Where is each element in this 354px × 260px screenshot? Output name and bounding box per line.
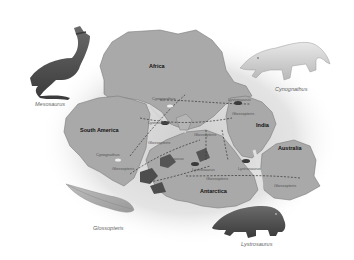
australia-landmass (260, 140, 320, 200)
cynognathus-marker-icon (167, 104, 173, 107)
map-graphic (0, 0, 354, 260)
cynognathus-marker-icon (115, 158, 121, 161)
lystrosaurus-marker-icon (191, 162, 199, 166)
lystrosaurus-marker-icon (242, 159, 250, 163)
lystrosaurus-marker-icon (234, 101, 242, 105)
lystrosaurus-marker-icon (161, 121, 169, 125)
gondwana-fossil-map: Africa South America India Australia Ant… (0, 0, 354, 260)
